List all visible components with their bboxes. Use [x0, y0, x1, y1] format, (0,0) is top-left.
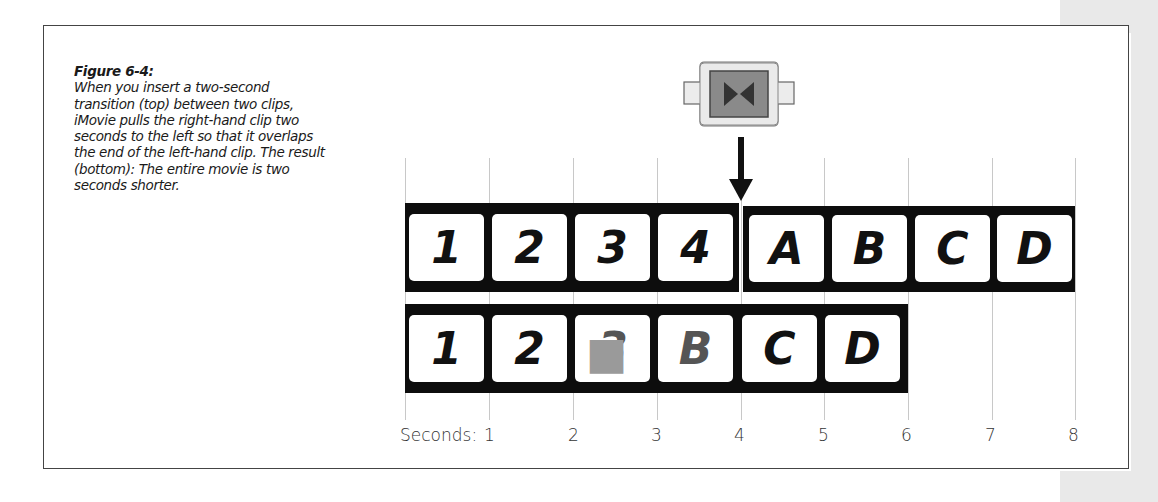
gridline	[1075, 158, 1076, 420]
tick-6: 6	[901, 425, 912, 445]
tick-2: 2	[568, 425, 579, 445]
sidebar-background	[1131, 0, 1158, 502]
frame-1: 1	[409, 315, 484, 382]
blend-ghost: ■	[586, 327, 628, 378]
frame-a: A	[749, 215, 824, 282]
result-clip: 1 2 ■ 3 B C D	[405, 304, 908, 393]
down-arrow-icon	[729, 179, 753, 201]
frame-2: 2	[492, 315, 567, 382]
frame-3: 3	[575, 214, 650, 281]
frame-2: 2	[492, 214, 567, 281]
figure-title: Figure 6-4:	[74, 63, 334, 79]
transition-icon	[680, 60, 796, 128]
figure-caption: Figure 6-4: When you insert a two-second…	[74, 63, 334, 193]
sidebar-background-bottom	[1060, 471, 1158, 502]
figure-caption-text: When you insert a two-second transition …	[74, 79, 325, 193]
top-left-clip: 1 2 3 4	[405, 203, 739, 292]
tick-4: 4	[734, 425, 745, 445]
axis-prefix: Seconds:	[400, 425, 477, 445]
frame-d: D	[997, 215, 1072, 282]
tick-1: 1	[484, 425, 495, 445]
frame-4: 4	[658, 214, 733, 281]
frame-d: D	[825, 315, 900, 382]
down-arrow-shaft	[738, 137, 744, 181]
frame-b: B	[832, 215, 907, 282]
frame-3-blend: ■ 3	[575, 315, 650, 382]
frame-b-blend: B	[658, 315, 733, 382]
frame-c: C	[915, 215, 990, 282]
tick-3: 3	[651, 425, 662, 445]
frame-1: 1	[409, 214, 484, 281]
frame-c: C	[742, 315, 817, 382]
tick-8: 8	[1068, 425, 1079, 445]
tick-5: 5	[818, 425, 829, 445]
top-right-clip: A B C D	[743, 206, 1075, 292]
tick-7: 7	[985, 425, 996, 445]
